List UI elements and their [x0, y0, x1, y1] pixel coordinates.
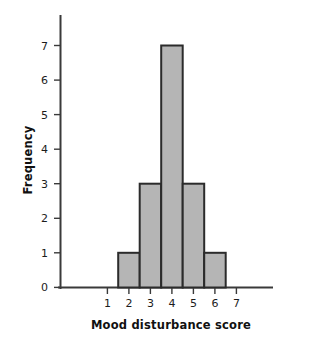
bar-score-2: [118, 253, 140, 288]
bars-group: [118, 46, 226, 288]
histogram-chart: 7 6 5 4 3 2 1 0 1 2 3 4 5: [0, 0, 310, 343]
x-tick-label-1: 1: [104, 297, 111, 310]
x-tick-label-3: 3: [147, 297, 154, 310]
bar-score-5: [183, 184, 205, 288]
y-tick-label-3: 3: [41, 178, 48, 191]
x-tick-label-2: 2: [125, 297, 132, 310]
x-tick-label-7: 7: [233, 297, 240, 310]
y-tick-label-1: 1: [41, 247, 48, 260]
y-axis-ticks: [54, 46, 60, 288]
x-tick-label-6: 6: [211, 297, 218, 310]
bar-score-3: [140, 184, 162, 288]
y-tick-label-6: 6: [41, 74, 48, 87]
bar-score-4: [161, 46, 183, 288]
y-tick-label-0: 0: [41, 281, 48, 294]
y-tick-label-2: 2: [41, 212, 48, 225]
x-tick-label-4: 4: [168, 297, 175, 310]
x-axis-ticks: [107, 288, 236, 294]
bar-score-6: [204, 253, 226, 288]
y-axis-title: Frequency: [21, 125, 35, 194]
y-tick-label-4: 4: [41, 143, 48, 156]
x-tick-label-5: 5: [190, 297, 197, 310]
y-tick-label-5: 5: [41, 109, 48, 122]
x-axis-title: Mood disturbance score: [91, 318, 251, 332]
chart-canvas: 7 6 5 4 3 2 1 0 1 2 3 4 5: [0, 0, 310, 343]
y-tick-label-7: 7: [41, 40, 48, 53]
